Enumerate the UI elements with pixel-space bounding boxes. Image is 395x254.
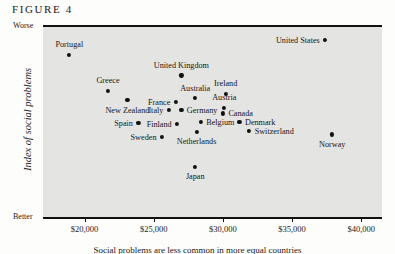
- data-point-label: Greece: [96, 76, 119, 85]
- data-point-label: United Kingdom: [154, 61, 209, 70]
- data-point-label: Spain: [114, 118, 133, 127]
- data-point-label: Japan: [186, 172, 205, 181]
- x-tick-label: $25,000: [140, 224, 168, 234]
- data-point-label: Netherlands: [177, 137, 217, 146]
- data-point-label: Belgium: [206, 118, 234, 127]
- data-point-label: Ireland: [214, 79, 237, 88]
- x-tick-label: $20,000: [71, 224, 99, 234]
- x-tick-mark: [85, 217, 86, 222]
- data-point-label: Germany: [187, 105, 217, 114]
- data-point-label: Switzerland: [255, 126, 294, 135]
- data-point-label: United States: [276, 36, 320, 45]
- figure-caption: Social problems are less common in more …: [0, 245, 395, 254]
- data-point-label: Portugal: [55, 40, 83, 49]
- x-axis-line: [43, 217, 382, 219]
- x-tick-mark: [361, 217, 362, 222]
- x-tick-mark: [223, 217, 224, 222]
- data-point-label: Australia: [180, 84, 210, 93]
- data-point-label: Sweden: [131, 133, 157, 142]
- x-tick-label: $40,000: [347, 224, 375, 234]
- y-axis-better-label: Better: [13, 212, 33, 221]
- data-point-label: New Zealand: [105, 106, 149, 115]
- x-tick-label: $30,000: [209, 224, 237, 234]
- x-tick-label: $35,000: [278, 224, 306, 234]
- data-point-label: Italy: [148, 105, 163, 114]
- data-point-label: Finland: [147, 119, 172, 128]
- x-tick-mark: [154, 217, 155, 222]
- y-axis-worse-label: Worse: [13, 21, 33, 30]
- figure-container: FIGURE 4 Worse Better Index of social pr…: [0, 0, 395, 254]
- data-point-label: Norway: [319, 140, 345, 149]
- data-point-label: Austria: [212, 93, 236, 102]
- figure-label: FIGURE 4: [12, 3, 73, 15]
- y-axis-title: Index of social problems: [22, 45, 33, 195]
- x-tick-mark: [292, 217, 293, 222]
